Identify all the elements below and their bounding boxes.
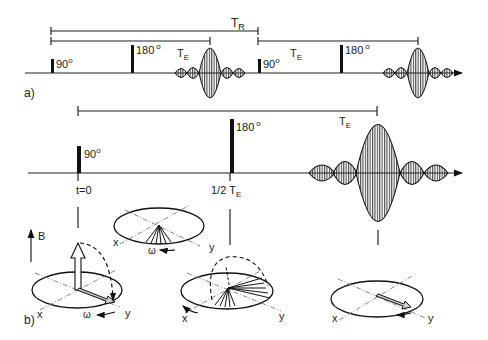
pulse-90-2 [258,59,261,73]
y-axis-label-3: y [279,310,285,322]
te-label-2: TE [290,47,302,62]
pulse-180-label-2: 180o [345,42,370,56]
part-b-vectors: B ω x y b) [24,205,434,327]
pulse-90-1 [51,59,54,73]
pulse-180-label-main: 180o [236,119,261,133]
omega-label-2: ω [148,245,156,256]
pulse-180-2 [340,45,343,73]
echo-signal-main [309,125,448,222]
te-label-main: TE [339,115,351,130]
precession-disc-dephasing: ω x y [113,205,215,256]
spin-echo-diagram: TR TE TE 90o 180o [0,0,488,340]
magnetization-vector-z [71,243,85,290]
tr-label: TR [231,16,245,32]
t0-label: t=0 [76,184,92,196]
y-axis-label-2: y [209,241,215,253]
half-te-label: 1/2 TE [211,184,241,199]
b-field-label: B [38,230,45,242]
timeline-sequence: TE 90o 180o t=0 1/2 TE [28,106,462,245]
te-bracket-main [78,106,377,116]
omega-label-1: ω [83,309,91,320]
pulse-90-main [77,146,81,173]
pulse-180-main [230,119,234,173]
pulse-90-label-main: 90o [84,146,101,160]
pulse-90-label-1: 90o [56,56,73,70]
part-a-label: a) [24,86,35,100]
x-axis-label-3: x [182,312,188,324]
y-axis-label-1: y [125,307,131,319]
tip-arc [80,243,113,298]
precession-disc-t0: ω x y [32,243,131,320]
pulse-180-label-1: 180o [136,42,161,56]
pulse-180-1 [131,45,134,73]
x-axis-label-4: x [332,312,338,324]
rephased-vector [376,294,411,309]
y-axis-label-4: y [428,312,434,324]
te-label-1: TE [177,47,189,62]
x-axis-label-2: x [113,236,119,248]
part-a-sequence: TR TE TE 90o 180o [24,16,462,100]
precession-disc-echo: x y [331,276,434,324]
pulse-90-label-2: 90o [263,56,280,70]
part-b-label: b) [24,313,35,327]
te-bracket-1 [51,37,210,45]
magnetization-vector-xy [77,288,115,304]
x-axis-label-1: x [37,308,43,320]
tr-bracket [51,27,258,35]
precession-disc-refocus: x y [181,257,285,324]
echo-signal-2 [383,48,453,98]
te-bracket-2 [258,37,418,45]
